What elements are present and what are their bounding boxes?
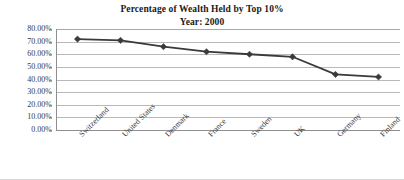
x-axis-category-labels: SwitzerlandUnited StatesDenmarkFranceSwe… [56,131,404,180]
y-tick-mark-80 [49,29,52,30]
plot-area [56,29,400,130]
data-point-germany [332,71,338,77]
series-polyline [78,39,379,77]
y-tick-mark-60 [49,54,52,55]
page-title: Percentage of Wealth Held by Top 10% [0,3,404,16]
y-tick-label-30: 30.00% [0,88,52,96]
y-tick-label-50: 50.00% [0,63,52,71]
y-tick-label-10: 10.00% [0,113,52,121]
y-tick-mark-30 [49,92,52,93]
y-tick-mark-0 [49,130,52,131]
data-point-switzerland [74,36,80,42]
data-point-france [203,49,209,55]
data-point-denmark [160,44,166,50]
y-tick-mark-20 [49,105,52,106]
chart-subtitle: Year: 2000 [0,16,404,29]
y-axis-tick-labels: 80.00%70.00%60.00%50.00%40.00%30.00%20.0… [0,29,52,130]
y-tick-mark-10 [49,117,52,118]
wealth-share-line-chart: Percentage of Wealth Held by Top 10% Yea… [0,0,404,180]
data-point-finland [375,74,381,80]
series-line-switzerland-to-finland [56,29,400,130]
y-tick-label-40: 40.00% [0,76,52,84]
data-point-sweden [246,51,252,57]
y-tick-label-20: 20.00% [0,101,52,109]
y-tick-label-80: 80.00% [0,25,52,33]
y-tick-label-0: 0.00% [0,126,52,134]
y-tick-mark-50 [49,67,52,68]
y-tick-mark-40 [49,80,52,81]
data-point-united-states [117,37,123,43]
y-tick-label-70: 70.00% [0,38,52,46]
y-tick-mark-70 [49,42,52,43]
y-tick-label-60: 60.00% [0,50,52,58]
data-point-uk [289,54,295,60]
chart-title-block: Percentage of Wealth Held by Top 10% Yea… [0,3,404,28]
